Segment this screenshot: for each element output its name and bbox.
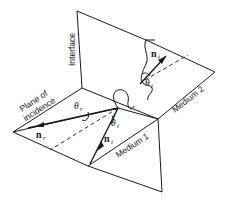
dashed-lines xyxy=(50,55,188,150)
svg-text:n: n xyxy=(36,129,42,140)
svg-text:θ: θ xyxy=(111,118,116,128)
svg-text:r: r xyxy=(80,105,83,113)
svg-text:θ: θ xyxy=(74,101,79,111)
label-theta-i: θ i xyxy=(111,118,119,130)
interface-label: Interface xyxy=(67,33,77,66)
label-n-t: n t xyxy=(151,48,161,61)
optics-diagram: Interface Plane of incidence Medium 1 Me… xyxy=(0,0,236,204)
label-n-r: n r xyxy=(36,129,46,142)
svg-text:i: i xyxy=(111,138,113,146)
interface-plane xyxy=(77,11,155,100)
transmitted-vector xyxy=(140,56,166,84)
label-n-i: n i xyxy=(104,133,113,146)
label-theta-r: θ r xyxy=(74,101,83,113)
svg-text:θ: θ xyxy=(145,78,150,88)
svg-text:i: i xyxy=(117,122,119,130)
label-theta-t: θ t xyxy=(145,78,154,90)
svg-text:n: n xyxy=(104,133,110,144)
plane-of-incidence-label: Plane of incidence xyxy=(16,87,57,123)
svg-text:r: r xyxy=(43,134,46,142)
svg-text:t: t xyxy=(151,82,154,90)
svg-text:n: n xyxy=(151,48,157,59)
origin-curl xyxy=(114,90,135,109)
medium2-label: Medium 2 xyxy=(170,84,206,115)
